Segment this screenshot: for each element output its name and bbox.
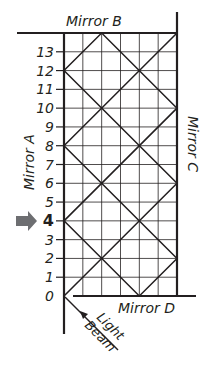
tick-label: 5 <box>45 194 54 210</box>
mirror-b-label: Mirror B <box>66 13 122 29</box>
mirror-a-label: Mirror A <box>21 134 37 190</box>
tick-label: 7 <box>45 157 54 173</box>
y-axis-ticks: 012345678910111213 <box>36 44 64 304</box>
tick-label: 12 <box>36 63 54 79</box>
tick-label: 9 <box>45 119 54 135</box>
tick-label: 10 <box>36 100 54 116</box>
beam-arrowhead-icon <box>80 311 88 319</box>
tick-label: 1 <box>45 269 54 285</box>
tick-label: 6 <box>45 175 54 191</box>
mirror-diagram: 012345678910111213 Mirror B Mirror D Mir… <box>0 0 205 370</box>
mirror-c-label: Mirror C <box>185 116 201 172</box>
tick-label: 11 <box>36 81 54 97</box>
tick-label: 13 <box>36 44 54 60</box>
mirror-d-label: Mirror D <box>118 300 175 316</box>
tick-label: 0 <box>45 288 54 304</box>
tick-label: 4 <box>43 211 54 230</box>
tick-label: 8 <box>45 138 54 154</box>
tick-label: 3 <box>45 232 54 248</box>
tick-label: 2 <box>45 250 54 266</box>
highlight-arrow-icon <box>16 211 37 231</box>
